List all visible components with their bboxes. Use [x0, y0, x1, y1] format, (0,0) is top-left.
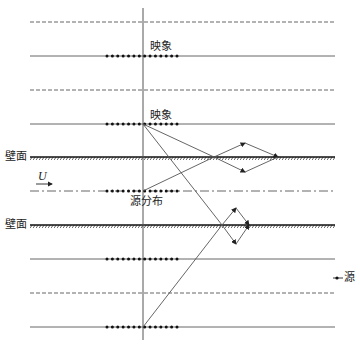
source-dot	[165, 55, 168, 58]
source-dot	[154, 258, 157, 261]
source-dot	[106, 123, 109, 126]
source-dot	[176, 123, 179, 126]
source-dot	[165, 190, 168, 193]
velocity-label: U	[38, 170, 47, 182]
source-dot	[132, 123, 135, 126]
source-dot	[170, 326, 173, 329]
source-dot	[122, 123, 125, 126]
source-dot	[170, 55, 173, 58]
source-dot	[106, 190, 109, 193]
source-dot	[159, 190, 162, 193]
source-dot	[111, 190, 114, 193]
source-dot	[149, 123, 152, 126]
source-dot	[122, 326, 125, 329]
source-dot	[111, 55, 114, 58]
source-dot	[143, 55, 146, 58]
source-dot	[159, 55, 162, 58]
source-dot	[132, 258, 135, 261]
source-dot	[143, 258, 146, 261]
source-dot	[116, 326, 119, 329]
source-dot	[127, 190, 130, 193]
source-dot	[127, 258, 130, 261]
source-dot	[138, 326, 141, 329]
source-dot	[176, 258, 179, 261]
source-dot	[138, 190, 141, 193]
source-dot	[176, 326, 179, 329]
source-dot	[149, 190, 152, 193]
source-dots	[106, 55, 179, 329]
source-dot	[159, 123, 162, 126]
source-dot	[149, 55, 152, 58]
source-dot	[170, 123, 173, 126]
source-dot	[154, 190, 157, 193]
source-dot	[176, 55, 179, 58]
source-dot	[116, 55, 119, 58]
source-dot	[170, 258, 173, 261]
source-dot	[122, 55, 125, 58]
source-dot	[149, 258, 152, 261]
source-dot	[111, 258, 114, 261]
source-dot	[159, 326, 162, 329]
diagram-canvas	[0, 0, 360, 349]
source-dot	[149, 326, 152, 329]
source-dot	[122, 190, 125, 193]
source-dot	[176, 190, 179, 193]
legend-source-label: 源	[344, 272, 355, 284]
source-dot	[116, 123, 119, 126]
source-dot	[132, 326, 135, 329]
source-dot	[138, 123, 141, 126]
source-dot	[116, 190, 119, 193]
source-dot	[138, 55, 141, 58]
wall-label-upper: 壁面	[5, 151, 27, 163]
source-dot	[111, 123, 114, 126]
source-dot	[154, 55, 157, 58]
source-dot	[170, 190, 173, 193]
wall-label-lower: 壁面	[5, 219, 27, 231]
source-dot	[165, 258, 168, 261]
source-dot	[106, 258, 109, 261]
source-dot	[132, 55, 135, 58]
source-dot	[106, 326, 109, 329]
source-dot	[165, 123, 168, 126]
source-dot	[111, 326, 114, 329]
image-label-top: 映象	[150, 41, 172, 53]
source-dot	[106, 55, 109, 58]
source-dot	[127, 326, 130, 329]
source-dot	[127, 123, 130, 126]
source-dot	[165, 326, 168, 329]
source-dot	[159, 258, 162, 261]
image-source-diagram: 映象 映象 壁面 壁面 U 源分布 源	[0, 0, 360, 349]
source-dot	[127, 55, 130, 58]
source-distribution-label: 源分布	[130, 196, 163, 208]
image-label-mid: 映象	[150, 110, 172, 122]
source-dot	[132, 190, 135, 193]
source-dot	[154, 326, 157, 329]
source-dot	[154, 123, 157, 126]
legend-source-icon	[333, 276, 343, 279]
source-dot	[116, 258, 119, 261]
source-dot	[122, 258, 125, 261]
source-dot	[138, 258, 141, 261]
